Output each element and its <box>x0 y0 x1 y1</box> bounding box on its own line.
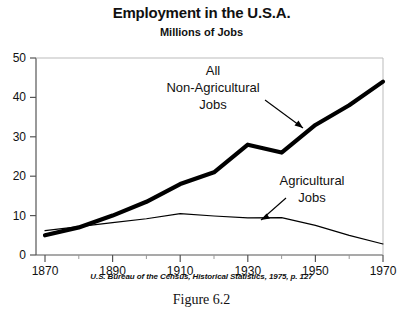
y-tick-label: 20 <box>13 169 27 183</box>
y-axis-labels: 0 10 20 30 40 50 <box>13 51 27 262</box>
y-tick-label: 30 <box>13 130 27 144</box>
annotation-non-agricultural: All Non-Agricultural Jobs <box>166 63 303 128</box>
series-line-agricultural <box>45 214 383 244</box>
y-tick-label: 50 <box>13 51 27 65</box>
x-axis-minor-ticks <box>79 255 349 259</box>
annotation-ag-line1: Agricultural <box>279 173 344 188</box>
annotation-nonag-line2: Non-Agricultural <box>166 80 259 95</box>
figure-caption: Figure 6.2 <box>0 292 403 308</box>
figure-container: Employment in the U.S.A. Millions of Job… <box>0 0 403 315</box>
annotation-nonag-line1: All <box>206 63 221 78</box>
y-axis-ticks <box>30 58 36 255</box>
plot-area: 0 10 20 30 40 50 <box>0 0 403 315</box>
y-tick-label: 10 <box>13 209 27 223</box>
source-note: U.S. Bureau of the Census, Historical St… <box>0 272 403 281</box>
annotation-nonag-line3: Jobs <box>199 97 227 112</box>
y-tick-label: 40 <box>13 90 27 104</box>
annotation-agricultural: Agricultural Jobs <box>261 173 345 220</box>
chart-svg: 0 10 20 30 40 50 <box>0 0 403 315</box>
y-tick-label: 0 <box>19 248 26 262</box>
annotation-ag-line2: Jobs <box>298 190 326 205</box>
